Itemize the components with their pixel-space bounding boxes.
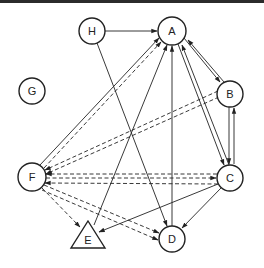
node-b-label: B: [226, 88, 233, 100]
edge-f-a-solid: [40, 38, 159, 165]
node-b[interactable]: B: [217, 81, 243, 107]
node-h[interactable]: H: [79, 18, 105, 44]
edge-b-f-2: [46, 97, 219, 174]
node-a-label: A: [168, 25, 176, 37]
edges: [40, 31, 234, 240]
edge-f-d-1: [44, 185, 159, 233]
node-e[interactable]: E: [71, 221, 105, 248]
edge-f-e: [42, 188, 80, 227]
edge-b-f-1: [45, 91, 218, 170]
node-h-label: H: [88, 25, 96, 37]
node-d-label: D: [168, 233, 176, 245]
node-g[interactable]: G: [19, 78, 45, 104]
edge-c-f-2: [45, 183, 218, 184]
node-g-label: G: [28, 85, 37, 97]
edge-b-a: [188, 40, 224, 82]
node-f-label: F: [29, 171, 36, 183]
node-f[interactable]: F: [18, 163, 46, 191]
edge-a-b: [184, 38, 220, 82]
node-c[interactable]: C: [217, 165, 243, 191]
node-e-label: E: [84, 234, 91, 246]
edge-a-c: [178, 44, 224, 165]
node-a[interactable]: A: [158, 17, 186, 45]
graph-diagram: H A G B F C E D: [0, 0, 264, 268]
edge-c-d: [182, 188, 221, 228]
node-d[interactable]: D: [159, 226, 185, 252]
edge-c-e: [99, 184, 218, 232]
edge-f-a-dashed: [44, 42, 161, 168]
node-c-label: C: [226, 172, 234, 184]
